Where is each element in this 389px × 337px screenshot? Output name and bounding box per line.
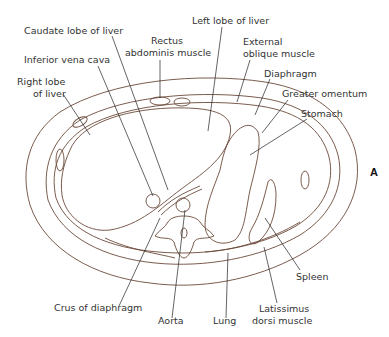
label-spleen: Spleen [296, 271, 328, 282]
muscle-layer-outline [46, 94, 340, 264]
label-latissimus-1: Latissimus [259, 303, 309, 314]
label-diaphragm: Diaphragm [264, 68, 317, 79]
spleen-outline [249, 180, 276, 244]
label-ivc: Inferior vena cava [24, 54, 110, 65]
aorta [176, 198, 190, 212]
label-right-lobe-1: Right lobe [17, 76, 66, 87]
label-lung: Lung [213, 315, 236, 326]
label-ext-oblique-2: oblique muscle [243, 48, 315, 59]
label-crus: Crus of diaphragm [54, 302, 142, 313]
rectus-abdominis-right [174, 98, 190, 106]
panel-letter: A [370, 166, 378, 178]
label-left-lobe: Left lobe of liver [192, 15, 269, 26]
leader-left-lobe [208, 27, 222, 131]
label-rectus-2: abdominis muscle [125, 47, 211, 58]
stomach-outline [205, 125, 259, 243]
leader-greater-omentum [262, 100, 288, 133]
label-stomach: Stomach [301, 108, 343, 119]
label-latissimus-2: dorsi muscle [252, 315, 312, 326]
leader-spleen [265, 218, 300, 270]
inferior-vena-cava [146, 194, 160, 208]
label-caudate-lobe: Caudate lobe of liver [24, 25, 123, 36]
leader-latissimus [264, 247, 277, 303]
label-aorta: Aorta [158, 315, 184, 326]
label-right-lobe-2: of liver [33, 88, 66, 99]
leader-crus [119, 218, 160, 306]
anatomy-cross-section: Caudate lobe of liver Inferior vena cava… [0, 0, 389, 337]
rectus-abdominis-left [150, 97, 170, 105]
leader-lung [226, 253, 228, 318]
label-ext-oblique-1: External [243, 36, 282, 47]
leader-ivc [98, 66, 153, 196]
leader-right-lobe [63, 94, 90, 135]
label-greater-omentum: Greater omentum [282, 88, 367, 99]
rib-section [301, 171, 309, 189]
label-rectus-1: Rectus [151, 35, 183, 46]
